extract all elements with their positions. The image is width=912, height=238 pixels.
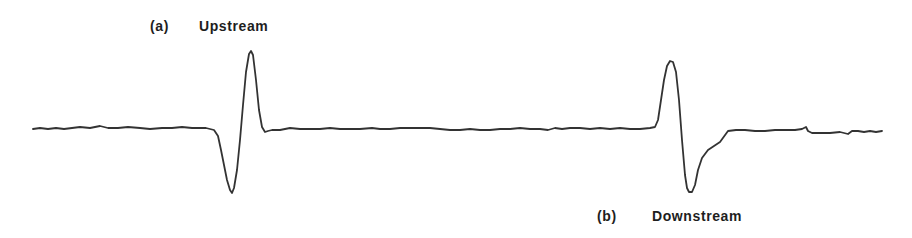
label-b-tag: (b) — [597, 208, 617, 224]
label-upstream: Upstream — [199, 18, 268, 34]
label-a-tag: (a) — [150, 18, 169, 34]
signal-trace-line — [33, 51, 882, 193]
signal-chart — [0, 0, 912, 238]
label-downstream: Downstream — [652, 208, 742, 224]
